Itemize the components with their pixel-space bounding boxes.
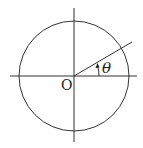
origin-label: O <box>61 77 72 93</box>
circle-diagram: θ O <box>0 0 143 148</box>
angle-label: θ <box>102 59 111 77</box>
angle-arrow-icon <box>96 63 100 68</box>
